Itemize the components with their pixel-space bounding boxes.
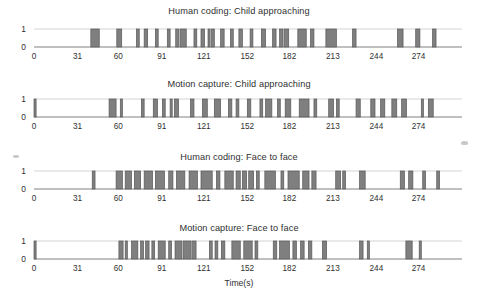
y-tick-label: 0 [21, 112, 26, 122]
event-bar [250, 29, 253, 47]
event-bar [336, 171, 341, 189]
event-bar [360, 171, 366, 189]
x-tick-label: 152 [240, 122, 254, 131]
event-bar [201, 171, 212, 189]
event-bar [230, 29, 233, 47]
event-bar [232, 241, 240, 259]
event-bar [92, 171, 95, 189]
event-bar [402, 99, 407, 117]
event-bar [34, 241, 36, 259]
event-bar [310, 29, 314, 47]
x-tick-label: 213 [326, 122, 340, 131]
event-bar [428, 99, 433, 117]
x-tick-label: 182 [283, 194, 297, 203]
event-bar [326, 29, 337, 47]
x-tick-label: 121 [197, 264, 211, 273]
event-bar [381, 99, 385, 117]
panel-title-3: Human coding: Face to face [0, 152, 478, 162]
x-tick-label: 31 [73, 52, 83, 61]
event-bar [273, 241, 277, 259]
x-tick-label: 182 [283, 264, 297, 273]
event-bar [175, 241, 182, 259]
plot-area-1: 100316091121152182213244274 [0, 26, 478, 68]
event-bar [109, 99, 116, 117]
event-bar [125, 241, 127, 259]
event-bar [397, 29, 403, 47]
event-bar [180, 29, 186, 47]
event-bar [125, 171, 131, 189]
event-bar [216, 171, 220, 189]
event-bar [117, 29, 122, 47]
event-bar [244, 241, 252, 259]
event-bar [201, 29, 205, 47]
event-bar [437, 171, 440, 189]
event-bar [266, 99, 272, 117]
event-bar [215, 241, 218, 259]
event-bar [169, 171, 173, 189]
x-tick-label: 274 [412, 194, 426, 203]
x-tick-label: 121 [197, 122, 211, 131]
event-bar [214, 99, 220, 117]
scan-artifact [461, 141, 468, 145]
x-tick-label: 91 [157, 122, 167, 131]
event-bar [155, 29, 158, 47]
event-bar [228, 99, 232, 117]
event-bar [277, 99, 280, 117]
event-bar [360, 241, 364, 259]
event-bar [153, 99, 157, 117]
x-tick-label: 31 [73, 122, 83, 131]
x-tick-label: 213 [326, 264, 340, 273]
plot-area-2: 100316091121152182213244274 [0, 96, 478, 138]
event-bar [261, 29, 265, 47]
event-bar [194, 29, 197, 47]
x-tick-label: 152 [240, 194, 254, 203]
event-bar [152, 241, 155, 259]
x-tick-label: 182 [283, 52, 297, 61]
event-bar [299, 99, 309, 117]
event-bar [167, 29, 170, 47]
event-bar [247, 99, 251, 117]
event-bar [308, 241, 312, 259]
x-tick-label: 91 [157, 264, 167, 273]
x-tick-label: 213 [326, 194, 340, 203]
y-tick-label: 1 [21, 96, 26, 104]
event-bars [34, 99, 433, 117]
event-bar [353, 29, 357, 47]
event-bar [281, 171, 284, 189]
x-tick-label: 121 [197, 52, 211, 61]
figure-binary-timelines: Human coding: Child approaching100316091… [0, 0, 478, 299]
event-bar [162, 99, 165, 117]
x-tick-label: 152 [240, 264, 254, 273]
event-bar [146, 241, 150, 259]
x-tick-label: 60 [114, 122, 124, 131]
x-tick-label: 0 [32, 264, 37, 273]
event-bar [91, 29, 99, 47]
timeline-svg-4: 100316091121152182213244274 [0, 238, 478, 280]
event-bar [236, 99, 239, 117]
event-bar [371, 99, 375, 117]
event-bar [416, 29, 420, 47]
event-bar [392, 99, 397, 117]
event-bar [284, 29, 288, 47]
event-bar [288, 171, 299, 189]
event-bar [265, 171, 276, 189]
x-tick-label: 91 [157, 194, 167, 203]
event-bar [202, 99, 207, 117]
event-bar [136, 29, 139, 47]
event-bar [221, 241, 225, 259]
x-tick-label: 244 [370, 264, 384, 273]
y-tick-label: 0 [21, 184, 26, 194]
event-bar [208, 29, 210, 47]
x-tick-label: 31 [73, 264, 83, 273]
event-bar [406, 241, 412, 259]
x-tick-label: 274 [412, 52, 426, 61]
event-bar [256, 171, 259, 189]
x-tick-label: 274 [412, 122, 426, 131]
x-tick-label: 31 [73, 194, 83, 203]
timeline-svg-2: 100316091121152182213244274 [0, 96, 478, 138]
event-bar [212, 29, 215, 47]
event-bar [242, 171, 246, 189]
event-bar [170, 99, 172, 117]
event-bar [255, 241, 258, 259]
panel-title-4: Motion capture: Face to face [0, 223, 478, 233]
